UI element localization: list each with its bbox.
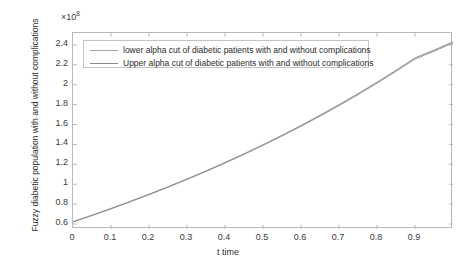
x-tick-label: 0.7 bbox=[321, 232, 355, 242]
chart-figure: ×108 0.60.811.21.41.61.822.22.4 00.10.20… bbox=[0, 0, 472, 271]
legend-item-label: Upper alpha cut of diabetic patients wit… bbox=[123, 58, 373, 69]
x-tick-label: 0.1 bbox=[93, 232, 127, 242]
legend-item: Upper alpha cut of diabetic patients wit… bbox=[84, 57, 368, 69]
y-tick-label: 2 bbox=[42, 79, 68, 88]
y-tick-label: 1.2 bbox=[42, 158, 68, 167]
x-axis-tick-labels: 00.10.20.30.40.50.60.70.80.9 bbox=[0, 232, 472, 246]
legend-line-icon bbox=[90, 58, 118, 69]
x-axis-title: t time bbox=[0, 247, 472, 257]
legend-item-label: lower alpha cut of diabetic patients wit… bbox=[123, 45, 371, 56]
y-tick-label: 2.4 bbox=[42, 39, 68, 48]
y-axis-tick-labels: 0.60.811.21.41.61.822.22.4 bbox=[40, 0, 68, 271]
y-tick-label: 1.6 bbox=[42, 119, 68, 128]
x-tick-label: 0.2 bbox=[131, 232, 165, 242]
y-tick-label: 1.4 bbox=[42, 138, 68, 147]
x-tick-label: 0.8 bbox=[359, 232, 393, 242]
y-tick-label: 0.8 bbox=[42, 198, 68, 207]
x-tick-label: 0 bbox=[55, 232, 89, 242]
x-tick-label: 0.5 bbox=[245, 232, 279, 242]
legend-item: lower alpha cut of diabetic patients wit… bbox=[84, 44, 368, 56]
y-tick-label: 2.2 bbox=[42, 59, 68, 68]
x-tick-label: 0.9 bbox=[397, 232, 431, 242]
chart-legend: lower alpha cut of diabetic patients wit… bbox=[83, 40, 369, 68]
y-tick-label: 1.8 bbox=[42, 99, 68, 108]
x-tick-label: 0.3 bbox=[169, 232, 203, 242]
x-tick-label: 0.6 bbox=[283, 232, 317, 242]
legend-line-icon bbox=[90, 45, 118, 56]
y-tick-label: 0.6 bbox=[42, 218, 68, 227]
y-tick-label: 1 bbox=[42, 178, 68, 187]
x-tick-label: 0.4 bbox=[207, 232, 241, 242]
y-axis-title: Fuzzy diabetic population with and witho… bbox=[30, 2, 40, 248]
